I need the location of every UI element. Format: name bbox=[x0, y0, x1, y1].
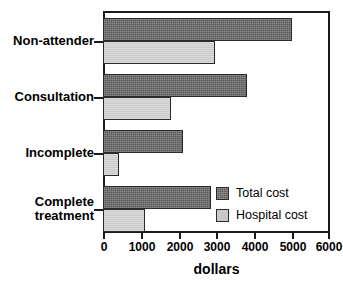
category-label-non-attender: Non-attender bbox=[13, 34, 94, 48]
x-tick-label-1000: 1000 bbox=[129, 240, 156, 254]
x-tick-label-3000: 3000 bbox=[204, 240, 231, 254]
bar-hospital-incomplete bbox=[103, 153, 119, 176]
legend-label-hospital-cost: Hospital cost bbox=[236, 208, 308, 222]
x-tick-label-2000: 2000 bbox=[167, 240, 194, 254]
bar-total-consultation bbox=[103, 74, 247, 97]
bar-total-incomplete bbox=[103, 130, 183, 153]
legend-label-total-cost: Total cost bbox=[236, 186, 289, 200]
bar-hospital-complete-treatment bbox=[103, 209, 145, 232]
x-tick-5000 bbox=[292, 233, 294, 239]
bar-total-complete-treatment bbox=[103, 186, 211, 209]
legend-swatch-total-cost-icon bbox=[216, 187, 229, 200]
x-axis-title: dollars bbox=[103, 261, 330, 277]
x-tick-label-0: 0 bbox=[101, 240, 108, 254]
legend-item-total-cost: Total cost bbox=[216, 182, 308, 204]
category-tick-non-attender bbox=[94, 41, 103, 43]
x-tick-label-6000: 6000 bbox=[316, 240, 343, 254]
x-tick-label-4000: 4000 bbox=[242, 240, 269, 254]
legend-swatch-hospital-cost-icon bbox=[216, 209, 229, 222]
x-tick-4000 bbox=[254, 233, 256, 239]
category-label-consultation: Consultation bbox=[15, 90, 94, 104]
category-label-incomplete: Incomplete bbox=[25, 146, 94, 160]
bar-chart: Non-attender Consultation Incomplete Com… bbox=[0, 0, 343, 287]
x-tick-3000 bbox=[216, 233, 218, 239]
x-tick-6000 bbox=[328, 233, 330, 239]
category-tick-complete-treatment bbox=[94, 209, 103, 211]
chart-legend: Total cost Hospital cost bbox=[216, 182, 308, 226]
bar-hospital-non-attender bbox=[103, 41, 215, 64]
bar-total-non-attender bbox=[103, 18, 292, 41]
x-tick-1000 bbox=[141, 233, 143, 239]
category-tick-consultation bbox=[94, 97, 103, 99]
x-tick-2000 bbox=[179, 233, 181, 239]
category-label-complete-treatment: Complete treatment bbox=[35, 195, 94, 223]
category-tick-incomplete bbox=[94, 153, 103, 155]
bar-hospital-consultation bbox=[103, 97, 171, 120]
x-tick-label-5000: 5000 bbox=[280, 240, 307, 254]
x-tick-0 bbox=[103, 233, 105, 239]
legend-item-hospital-cost: Hospital cost bbox=[216, 204, 308, 226]
